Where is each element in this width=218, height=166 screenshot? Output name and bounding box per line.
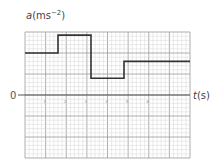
- acceleration-time-chart: 123456 a(ms−2) t(s) 0: [0, 0, 218, 166]
- y-axis-label: a(ms−2): [26, 9, 65, 21]
- x-tick-label: 4: [105, 99, 108, 104]
- x-axis-label: t(s): [193, 90, 210, 101]
- x-tick-label: 1: [43, 99, 46, 104]
- x-tick-label: 2: [64, 99, 67, 104]
- x-tick-label: 3: [85, 99, 88, 104]
- x-tick-label: 5: [126, 99, 129, 104]
- x-tick-label: 6: [146, 99, 149, 104]
- origin-label: 0: [10, 90, 16, 101]
